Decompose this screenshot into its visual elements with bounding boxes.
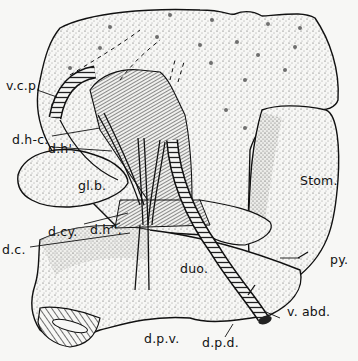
- label-ventral-pancreatic-duct: d.p.v.: [144, 333, 179, 346]
- label-dorsal-pancreatic-duct: d.p.d.: [202, 337, 239, 350]
- label-hepato-cystic-duct: d.h-c.: [12, 134, 48, 147]
- label-gall-bladder: gl.b.: [78, 180, 106, 193]
- label-stomach: Stom.: [300, 175, 338, 188]
- label-pylorus: py.: [330, 254, 348, 267]
- label-abdominal-vein: v. abd.: [287, 306, 330, 319]
- label-duodenum: duo.: [180, 263, 208, 276]
- label-cystic-duct: d.cy.: [48, 226, 77, 239]
- label-vena-cava-posterior: v.c.p.: [6, 80, 40, 93]
- label-hepatic-duct-1: d.h'.: [48, 143, 76, 156]
- label-common-duct: d.c.: [2, 244, 26, 257]
- label-hepatic-duct-2: d.h''.: [90, 224, 122, 237]
